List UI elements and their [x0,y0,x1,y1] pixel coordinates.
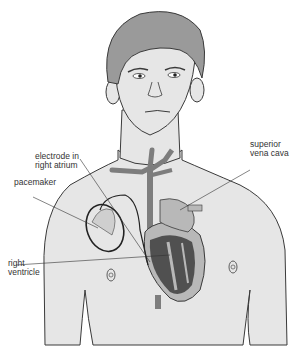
label-electrode: electrode in right atrium [35,152,79,170]
label-superior-vena-cava: superior vena cava [250,140,289,158]
label-right-ventricle: right ventricle [8,259,40,277]
pacemaker-diagram [0,0,301,352]
right-ear [190,78,204,102]
label-pacemaker: pacemaker [14,178,56,187]
